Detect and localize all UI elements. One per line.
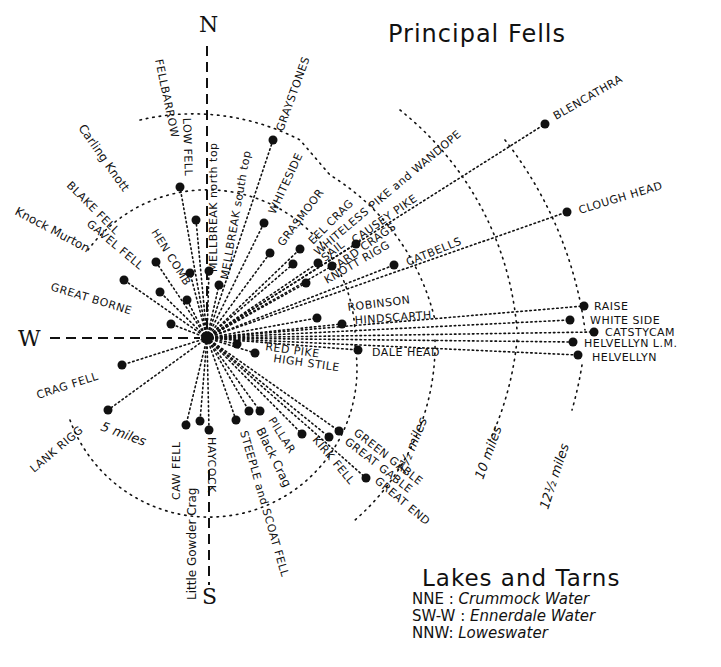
summit-dot-steeple [232, 416, 241, 425]
legend-item: SW-W : Ennerdale Water [412, 608, 712, 625]
summit-dot-graystones [269, 136, 278, 145]
summit-dot-clough-head [563, 208, 572, 217]
summit-dot-catstycam [590, 328, 599, 337]
label-helvellyn: HELVELLYN [592, 351, 657, 364]
summit-dot-gavel-fell [156, 288, 165, 297]
west-label: W [18, 326, 41, 351]
summit-dot-great-borne [167, 320, 176, 329]
label-caw-fell: CAW FELL [170, 441, 183, 500]
summit-dot-mellbreak-south [215, 281, 224, 290]
label-knock-murton: Knock Murton [13, 204, 93, 255]
label-mellbreak-north: MELLBREAK north top [207, 142, 220, 272]
label-graystones: GRAYSTONES [274, 55, 313, 133]
summit-dot-dale-head [354, 346, 363, 355]
label-helvellyn-lm: HELVELLYN L.M. [584, 337, 677, 350]
label-crag-fell: CRAG FELL [35, 370, 100, 402]
summit-dot-lank-rigg [104, 406, 113, 415]
legend-direction: NNE [412, 590, 444, 608]
summit-dot-caw-fell [182, 421, 191, 430]
legend-title: Lakes and Tarns [422, 565, 712, 591]
summit-dot-little-gowder-crag [196, 417, 205, 426]
summit-dot-haycock [205, 426, 214, 435]
ring-label-5-miles: 5 miles [99, 419, 149, 449]
summit-dot-fellbarrow [176, 183, 185, 192]
summit-dot-hen-comb [183, 296, 192, 305]
legend-item: NNW: Loweswater [412, 625, 712, 642]
viewpoint-marker [201, 332, 213, 344]
summit-dot-eel-crag [296, 245, 305, 254]
summit-dot-grasmoor [266, 249, 275, 258]
ring-12-5-miles [505, 140, 585, 330]
summit-dot-red-pike [233, 340, 242, 349]
label-blencathra: BLENCATHRA [551, 72, 625, 122]
label-fellbarrow: FELLBARROW [152, 58, 181, 139]
label-great-borne: GREAT BORNE [49, 280, 133, 317]
label-whiteless-pike: WHITELESS PIKE and WANDOPE [312, 127, 464, 258]
summit-dot-knott-rigg [302, 279, 311, 288]
legend-lake: Loweswater [458, 624, 548, 642]
legend-item: NNE : Crummock Water [412, 591, 712, 608]
south-label: S [202, 584, 217, 609]
summit-dot-knock-murton [120, 276, 129, 285]
legend-lake: Ennerdale Water [470, 607, 595, 625]
summit-dot-blake-fell [152, 258, 161, 267]
summit-dot-blencathra [541, 120, 550, 129]
summit-dot-green-gable [335, 427, 344, 436]
summit-dot-low-fell [192, 216, 201, 225]
label-low-fell: LOW FELL [180, 118, 195, 177]
ring-10-miles [400, 110, 517, 330]
summit-dot-whiteless-pike [289, 260, 298, 269]
fell-labels: FELLBARROW LOW FELL MELLBREAK north top … [13, 55, 678, 600]
ring-12-5-miles-lower [572, 365, 582, 410]
legend-direction: NNW [412, 624, 448, 642]
label-carling-knott: Carling Knott [76, 122, 133, 195]
summit-dot-pillar [256, 407, 265, 416]
summit-dot-crag-fell [118, 361, 127, 370]
label-hen-comb: HEN COMB [148, 227, 193, 288]
ring-label-10-miles: 10 miles [472, 424, 505, 481]
north-label: N [199, 12, 218, 37]
summit-dot-high-stile [251, 349, 260, 358]
label-lank-rigg: LANK RIGG [28, 423, 86, 475]
summit-dot-robinson [313, 314, 322, 323]
legend-lake: Crummock Water [459, 590, 590, 608]
summit-dot-raise [580, 302, 589, 311]
summit-dot-great-end [362, 474, 371, 483]
ring-label-12-5-miles: 12½ miles [537, 441, 572, 510]
summit-dot-catbells [390, 261, 399, 270]
label-raise: RAISE [594, 300, 628, 313]
ring-10-miles-lower [490, 340, 517, 440]
diagram-title: Principal Fells [388, 20, 566, 48]
summit-dot-helvellyn [574, 351, 583, 360]
label-little-gowder-crag: Little Gowder Crag [185, 488, 199, 600]
summit-dot-black-crag [245, 407, 254, 416]
summit-dot-kirk-fell [298, 430, 307, 439]
summit-dot-sail [314, 259, 323, 268]
summit-dot-whiteside [260, 219, 269, 228]
label-dale-head: DALE HEAD [372, 346, 440, 359]
label-haycock: HAYCOCK [205, 437, 218, 493]
label-whiteside: WHITESIDE [266, 151, 306, 217]
summit-dot-helvellyn-lm [569, 338, 578, 347]
summit-dot-white-side [566, 316, 575, 325]
label-clough-head: CLOUGH HEAD [577, 179, 664, 217]
legend-direction: SW-W [412, 607, 455, 625]
summit-dot-hindscarth [338, 320, 347, 329]
lakes-and-tarns-legend: Lakes and Tarns NNE : Crummock Water SW-… [412, 565, 712, 642]
